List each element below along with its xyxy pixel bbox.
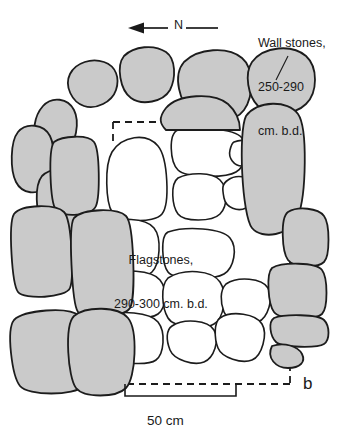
wall-stone	[270, 315, 328, 347]
scale-bar	[125, 384, 236, 396]
flagstone	[173, 174, 226, 220]
archaeological-plan-figure: Wall stones, 250-290 cm. b.d. Flagstones…	[0, 0, 345, 445]
flagstones-line-2: 290-300 cm. b.d.	[114, 297, 208, 312]
wall-stone	[268, 264, 326, 319]
scale-bar-label: 50 cm	[147, 413, 184, 429]
wall-stone	[120, 47, 174, 102]
north-arrow	[128, 23, 218, 34]
north-arrow-label: N	[174, 18, 183, 33]
flagstone	[215, 314, 264, 362]
wall-stones-line-2: 250-290	[258, 80, 326, 95]
panel-label: b	[303, 374, 312, 394]
wall-stone	[50, 137, 98, 215]
flagstone	[107, 137, 167, 220]
wall-stone	[283, 209, 329, 267]
flagstones-annotation: Flagstones, 290-300 cm. b.d.	[114, 223, 208, 341]
flagstones-line-1: Flagstones,	[114, 253, 208, 268]
wall-stone	[11, 206, 72, 297]
wall-stones-line-1: Wall stones,	[258, 36, 326, 51]
wall-stone	[270, 344, 303, 368]
wall-stones-line-3: cm. b.d.	[258, 124, 326, 139]
wall-stones-annotation: Wall stones, 250-290 cm. b.d.	[258, 6, 326, 168]
wall-stone	[68, 61, 118, 108]
